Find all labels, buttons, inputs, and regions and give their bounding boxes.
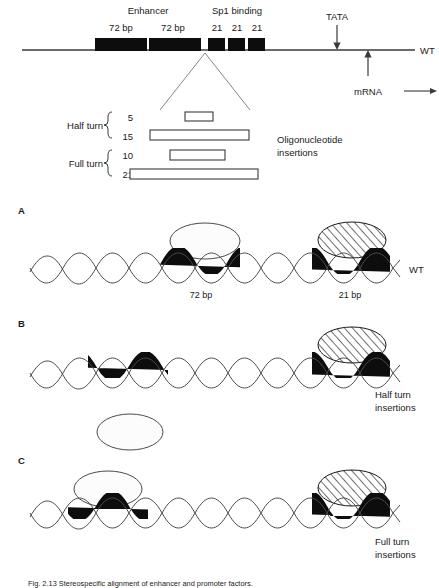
insertion-value-15: 15 [122, 131, 133, 142]
insertion-bar-21 [130, 169, 258, 179]
sp1-box-label-1: 21 [212, 22, 223, 33]
insertions-title-line1: Oligonucleotide [277, 134, 343, 145]
panel-c: C Full turn insertions [18, 455, 416, 560]
insertions-block: Half turn Full turn 5 15 10 21 Oligonucl… [67, 112, 342, 180]
figure-caption: Fig. 2.13 Stereospecific alignment of en… [28, 579, 253, 588]
panel-b-protein-blank [97, 414, 163, 450]
full-turn-brace-icon [104, 150, 112, 176]
full-turn-label: Full turn [69, 158, 103, 169]
sp1-box-3 [248, 38, 265, 51]
panel-c-right-label-line2: insertions [375, 549, 416, 560]
tata-arrowhead-icon [333, 43, 340, 51]
figure-container: Enhancer Sp1 binding 72 bp 72 bp 21 21 2… [0, 0, 439, 588]
panel-a-dna-label-72bp: 72 bp [190, 290, 213, 300]
enhancer-label: Enhancer [128, 5, 169, 16]
panel-c-right-label-line1: Full turn [375, 536, 409, 547]
enhancer-box-label-2: 72 bp [161, 22, 185, 33]
panel-b-right-label-line2: insertions [375, 402, 416, 413]
sp1-box-label-2: 21 [232, 22, 243, 33]
expansion-line-right [205, 53, 250, 110]
panel-a: A 72 bp 21 bp WT [18, 205, 424, 300]
sp1-box-2 [228, 38, 245, 51]
panel-b: B Half turn insertions [18, 318, 416, 450]
transcription-direction-arrowhead-icon [430, 88, 437, 94]
sp1-box-1 [208, 38, 225, 51]
enhancer-box-label-1: 72 bp [109, 22, 133, 33]
panel-a-letter: A [18, 205, 25, 216]
mrna-arrowhead-icon [364, 50, 371, 58]
panel-c-letter: C [18, 455, 25, 466]
panel-b-letter: B [18, 318, 25, 329]
insertion-bar-5 [185, 112, 213, 121]
sp1-binding-label: Sp1 binding [212, 5, 262, 16]
insertion-bar-10 [170, 150, 225, 160]
expansion-line-left [160, 53, 205, 110]
insertion-bar-15 [150, 130, 249, 140]
tata-label: TATA [326, 11, 349, 22]
panel-b-right-label-line1: Half turn [375, 389, 411, 400]
half-turn-label: Half turn [67, 120, 103, 131]
enhancer-box-2 [149, 38, 201, 51]
sp1-box-label-3: 21 [252, 22, 263, 33]
insertion-value-5: 5 [128, 112, 133, 123]
insertions-title-line2: insertions [277, 147, 318, 158]
top-dna-map: Enhancer Sp1 binding 72 bp 72 bp 21 21 2… [22, 5, 437, 110]
insertion-value-10: 10 [122, 150, 133, 161]
figure-svg: Enhancer Sp1 binding 72 bp 72 bp 21 21 2… [0, 0, 439, 588]
panel-a-right-label: WT [409, 264, 424, 275]
enhancer-box-1 [95, 38, 147, 51]
half-turn-brace-icon [104, 112, 112, 138]
map-wt-label: WT [420, 45, 435, 56]
panel-a-dna-label-21bp: 21 bp [339, 290, 362, 300]
mrna-label: mRNA [354, 86, 383, 97]
